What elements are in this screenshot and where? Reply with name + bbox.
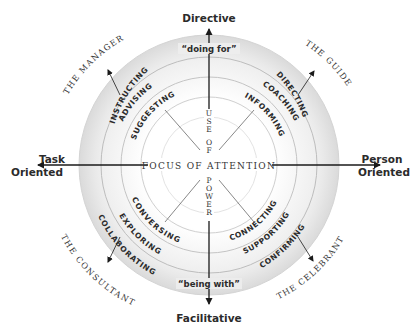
- axis-label-facilitative: Facilitative: [176, 312, 241, 324]
- axis-label-directive: Directive: [182, 12, 235, 24]
- doing-for-label: “doing for”: [182, 44, 237, 54]
- axis-label-person-line2: Oriented: [358, 166, 410, 178]
- leadership-style-diagram: Directive Facilitative Task Oriented Per…: [0, 0, 414, 332]
- being-with-label: “being with”: [178, 279, 240, 289]
- axis-label-task-line1: Task: [39, 153, 66, 165]
- svg-text:E: E: [206, 125, 211, 134]
- focus-text: FOCUS OF ATTENTION: [142, 161, 276, 171]
- axis-label-person-line1: Person: [362, 153, 403, 165]
- focus-of-attention-label: FOCUS OF ATTENTION: [142, 161, 276, 171]
- svg-text:F: F: [206, 146, 211, 155]
- axis-label-task-line2: Oriented: [11, 166, 63, 178]
- role-the-guide: THE GUIDE: [304, 38, 355, 89]
- svg-text:R: R: [206, 208, 212, 217]
